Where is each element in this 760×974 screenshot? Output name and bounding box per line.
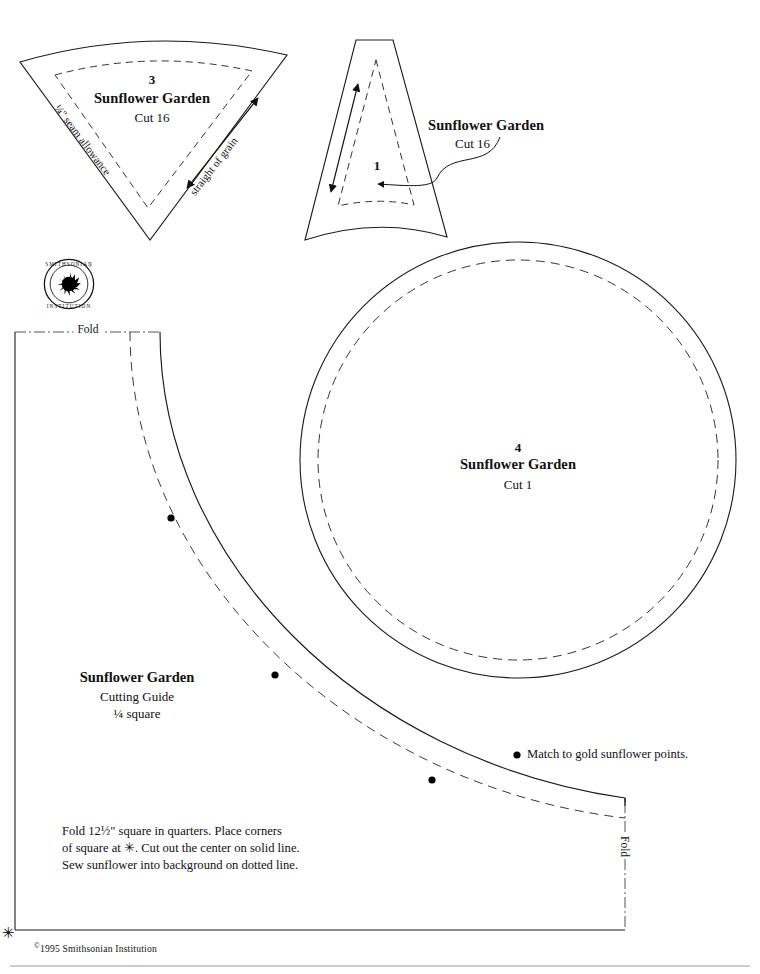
match-dot-3 (428, 776, 435, 783)
seal-ring-text-bottom: INSTITUTION (47, 303, 91, 309)
svg-text:®: ® (89, 264, 92, 269)
piece-1-title: Sunflower Garden (428, 117, 544, 135)
piece-1-outline (305, 40, 447, 240)
piece-3-cut: Cut 16 (134, 110, 169, 126)
corner-placement-asterisk-icon: ✳ (2, 926, 15, 941)
piece-4-title: Sunflower Garden (460, 456, 576, 474)
match-dot-1 (167, 514, 174, 521)
piece-1-grain-arrow (331, 84, 358, 192)
cutting-guide-instructions: Fold 12½" square in quarters. Place corn… (62, 823, 300, 874)
piece-4-cut: Cut 1 (504, 477, 533, 493)
fold-label-top: Fold (73, 322, 102, 336)
legend-bullet-icon (513, 751, 520, 758)
pattern-sheet-page: 3 Sunflower Garden Cut 16 ¼" seam allowa… (0, 0, 760, 974)
fold-label-right: Fold (618, 834, 632, 859)
copyright-notice: ©1995 Smithsonian Institution (34, 941, 157, 955)
piece-3-outline (20, 41, 287, 240)
piece-4-number: 4 (515, 440, 522, 456)
seal-ring-text-top: SMITHSONIAN (45, 261, 93, 267)
match-dot-2 (271, 671, 278, 678)
piece-1-cut: Cut 16 (455, 136, 490, 152)
cutting-guide-subtitle: Cutting Guide (100, 689, 174, 705)
copyright-text: 1995 Smithsonian Institution (40, 943, 157, 954)
match-points-legend: Match to gold sunflower points. (527, 747, 688, 762)
cutting-guide-title: Sunflower Garden (80, 669, 195, 687)
piece-1-number: 1 (374, 158, 381, 174)
smithsonian-seal-icon: SMITHSONIAN INSTITUTION ® (40, 255, 98, 313)
cutting-guide-fraction: ¼ square (114, 706, 161, 722)
piece-3-number: 3 (149, 72, 156, 88)
piece-3-title: Sunflower Garden (94, 90, 210, 108)
